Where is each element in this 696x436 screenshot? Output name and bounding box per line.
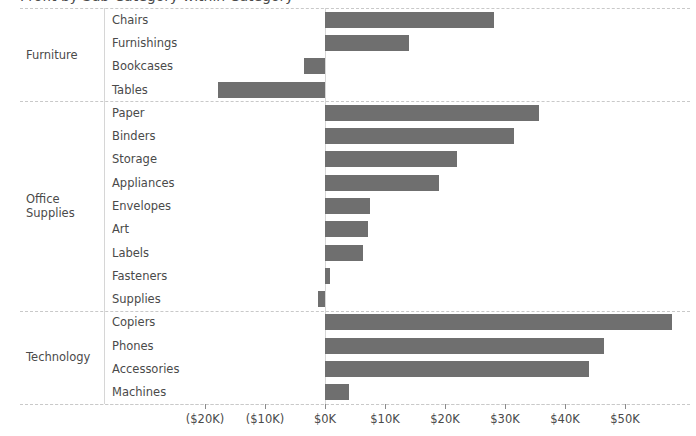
axis-tick <box>505 404 506 409</box>
group-separator <box>20 311 690 312</box>
axis-tick <box>445 404 446 409</box>
subcategory-row[interactable]: Chairs <box>0 8 696 31</box>
subcategory-row[interactable]: Accessories <box>0 357 696 380</box>
subcategory-row[interactable]: Machines <box>0 381 696 404</box>
subcategory-label: Phones <box>112 339 154 353</box>
bar[interactable] <box>304 58 325 74</box>
axis-tick-label: ($10K) <box>246 412 284 426</box>
axis-tick-label: $20K <box>430 412 460 426</box>
profit-bar-chart: Profit by Sub-Category within Category F… <box>0 0 696 436</box>
bar[interactable] <box>325 151 457 167</box>
subcategory-label: Labels <box>112 246 149 260</box>
subcategory-label: Machines <box>112 385 166 399</box>
bar[interactable] <box>325 175 439 191</box>
subcategory-label: Envelopes <box>112 199 171 213</box>
subcategory-label: Art <box>112 222 129 236</box>
subcategory-label: Chairs <box>112 13 148 27</box>
axis-tick-label: $50K <box>610 412 640 426</box>
subcategory-label: Binders <box>112 129 155 143</box>
axis-tick-label: $10K <box>370 412 400 426</box>
bar[interactable] <box>325 245 363 261</box>
bar[interactable] <box>325 268 330 284</box>
subcategory-row[interactable]: Paper <box>0 101 696 124</box>
subcategory-row[interactable]: Binders <box>0 124 696 147</box>
subcategory-row[interactable]: Tables <box>0 78 696 101</box>
bar[interactable] <box>325 384 349 400</box>
subcategory-label: Appliances <box>112 176 175 190</box>
axis-tick <box>265 404 266 409</box>
subcategory-row[interactable]: Supplies <box>0 288 696 311</box>
bar[interactable] <box>325 338 604 354</box>
bar[interactable] <box>325 198 370 214</box>
subcategory-row[interactable]: Art <box>0 218 696 241</box>
bar[interactable] <box>325 35 409 51</box>
axis-tick-label: ($20K) <box>186 412 224 426</box>
subcategory-row[interactable]: Bookcases <box>0 55 696 78</box>
subcategory-label: Supplies <box>112 292 161 306</box>
group-separator <box>20 101 690 102</box>
bar[interactable] <box>325 314 672 330</box>
category-group: Office SuppliesPaperBindersStorageApplia… <box>0 101 696 311</box>
axis-tick <box>325 404 326 409</box>
x-axis-line <box>20 404 690 405</box>
category-group: TechnologyCopiersPhonesAccessoriesMachin… <box>0 311 696 404</box>
subcategory-row[interactable]: Phones <box>0 334 696 357</box>
bar[interactable] <box>318 291 325 307</box>
axis-tick-label: $0K <box>314 412 336 426</box>
bar[interactable] <box>325 361 589 377</box>
subcategory-label: Accessories <box>112 362 179 376</box>
group-separator <box>20 8 690 9</box>
axis-tick <box>625 404 626 409</box>
bar[interactable] <box>218 82 325 98</box>
subcategory-label: Copiers <box>112 315 155 329</box>
subcategory-row[interactable]: Furnishings <box>0 31 696 54</box>
bar[interactable] <box>325 128 514 144</box>
subcategory-label: Storage <box>112 152 157 166</box>
subcategory-label: Bookcases <box>112 59 173 73</box>
axis-tick <box>205 404 206 409</box>
axis-tick-label: $40K <box>550 412 580 426</box>
subcategory-row[interactable]: Appliances <box>0 171 696 194</box>
bar[interactable] <box>325 12 494 28</box>
subcategory-label: Paper <box>112 106 145 120</box>
axis-tick-label: $30K <box>490 412 520 426</box>
subcategory-row[interactable]: Copiers <box>0 311 696 334</box>
x-axis: ($20K)($10K)$0K$10K$20K$30K$40K$50K <box>0 404 696 436</box>
subcategory-row[interactable]: Storage <box>0 148 696 171</box>
subcategory-row[interactable]: Envelopes <box>0 194 696 217</box>
subcategory-label: Fasteners <box>112 269 167 283</box>
chart-title-clipped: Profit by Sub-Category within Category <box>20 0 660 5</box>
subcategory-row[interactable]: Fasteners <box>0 264 696 287</box>
plot-area: FurnitureChairsFurnishingsBookcasesTable… <box>0 8 696 404</box>
bar[interactable] <box>325 221 368 237</box>
bar[interactable] <box>325 105 539 121</box>
subcategory-label: Tables <box>112 83 148 97</box>
axis-tick <box>385 404 386 409</box>
subcategory-row[interactable]: Labels <box>0 241 696 264</box>
page-title: Profit by Sub-Category within Category <box>20 0 660 5</box>
category-group: FurnitureChairsFurnishingsBookcasesTable… <box>0 8 696 101</box>
subcategory-label: Furnishings <box>112 36 177 50</box>
axis-tick <box>565 404 566 409</box>
